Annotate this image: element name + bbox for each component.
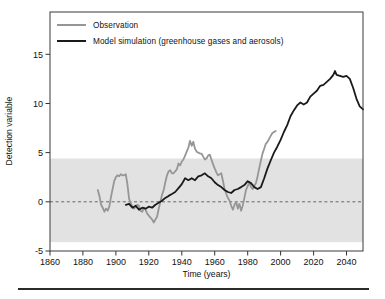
x-tick-label: 1980 [238,257,258,267]
x-tick-label: 2040 [336,257,356,267]
y-axis-title: Detection variable [4,31,16,231]
y-tick-label: 0 [38,197,43,207]
y-tick-label: -5 [35,246,43,256]
legend: Observation Model simulation (greenhouse… [57,17,284,49]
observation-line-swatch [57,24,86,26]
x-tick-label: 1860 [40,257,60,267]
legend-item-model-simulation: Model simulation (greenhouse gases and a… [57,33,284,49]
legend-item-observation: Observation [57,17,284,33]
x-tick-label: 1960 [205,257,225,267]
y-tick-label: 15 [33,50,43,60]
figure-separator-rule [18,288,369,290]
x-tick-label: 2000 [271,257,291,267]
x-tick-label: 1900 [106,257,126,267]
x-tick-label: 2020 [304,257,324,267]
x-tick-label: 1940 [172,257,192,267]
x-tick-label: 1880 [73,257,93,267]
model-line-swatch [57,40,86,42]
x-axis-title: Time (years) [50,269,363,279]
y-tick-label: 5 [38,148,43,158]
y-tick-label: 10 [33,99,43,109]
legend-label-observation: Observation [93,21,138,30]
detection-variable-figure: -505101518601880190019201940196019802000… [0,0,385,299]
legend-label-model-simulation: Model simulation (greenhouse gases and a… [93,37,284,46]
x-tick-label: 1920 [139,257,159,267]
natural-variability-band [50,159,363,243]
